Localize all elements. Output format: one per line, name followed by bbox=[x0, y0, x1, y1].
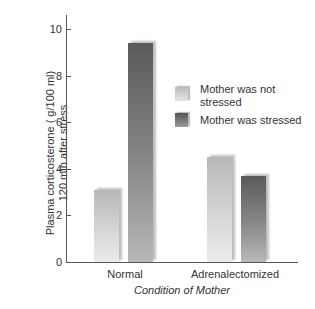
category-label-adrenalectomized: Adrenalectomized bbox=[185, 268, 285, 280]
legend-swatch-not-stressed bbox=[175, 87, 188, 101]
legend-label-stressed: Mother was stressed bbox=[200, 114, 301, 127]
y-tick bbox=[66, 215, 71, 216]
y-tick-label: 8 bbox=[42, 70, 62, 82]
y-tick bbox=[66, 122, 71, 123]
legend-label-line1: Mother was not bbox=[200, 83, 275, 96]
category-label-normal: Normal bbox=[100, 268, 150, 280]
y-tick-label: 2 bbox=[42, 209, 62, 221]
x-axis bbox=[66, 262, 298, 263]
bar-adrenalectomized-stressed bbox=[241, 176, 266, 262]
y-tick bbox=[66, 29, 71, 30]
legend-swatch-stressed bbox=[175, 113, 188, 127]
y-axis bbox=[66, 15, 67, 262]
bar-normal-not-stressed bbox=[94, 190, 119, 262]
y-tick-label: 6 bbox=[42, 116, 62, 128]
x-axis-label: Condition of Mother bbox=[66, 284, 298, 296]
y-tick bbox=[66, 76, 71, 77]
y-tick-label: 10 bbox=[42, 23, 62, 35]
legend-label-line2: stressed bbox=[200, 96, 275, 109]
legend-label-not-stressed: Mother was not stressed bbox=[200, 83, 275, 109]
y-tick-label: 4 bbox=[42, 163, 62, 175]
y-tick bbox=[66, 262, 71, 263]
y-tick-label: 0 bbox=[42, 256, 62, 268]
y-tick bbox=[66, 169, 71, 170]
bar-normal-stressed bbox=[128, 43, 153, 262]
bar-adrenalectomized-not-stressed bbox=[207, 157, 232, 262]
